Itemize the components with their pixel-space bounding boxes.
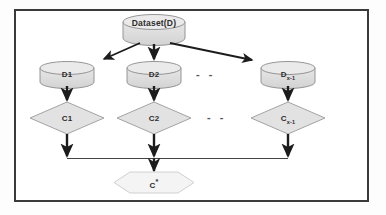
edge-dataset-to-d1: [104, 43, 140, 59]
node-partition-d2[interactable]: [127, 62, 181, 89]
node-clusterer-c1[interactable]: [30, 102, 104, 134]
node-partition-dx[interactable]: [261, 62, 315, 89]
node-clusterer-cx[interactable]: [251, 102, 325, 134]
node-partition-d1[interactable]: [40, 62, 94, 89]
node-clusterer-c2[interactable]: [117, 102, 191, 134]
node-final-consensus[interactable]: [114, 172, 194, 193]
node-dataset[interactable]: [123, 15, 185, 46]
flowchart-graphic: [0, 0, 386, 215]
diagram-canvas: Dataset(D) D1 D2 Dx-1 C1 C2 Cx-1 C* - - …: [0, 0, 386, 215]
edge-dataset-to-dx: [170, 43, 252, 60]
